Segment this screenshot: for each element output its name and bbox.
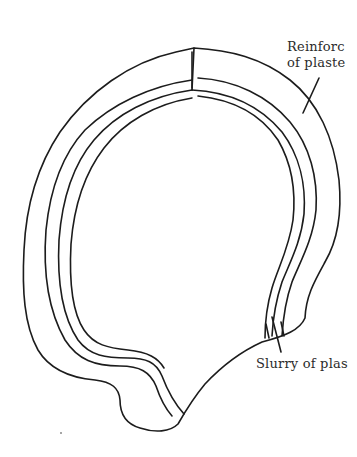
reinforcement-inner-contour-left bbox=[45, 80, 192, 416]
slurry-label-line-1: Slurry of plas bbox=[256, 356, 348, 372]
slurry-inner-line-left bbox=[70, 98, 192, 368]
reinforcement-label-line-1: Reinforc bbox=[287, 39, 345, 55]
slurry-label: Slurry of plas bbox=[256, 356, 348, 372]
reinforcement-label: Reinforc of plaste bbox=[287, 39, 345, 71]
stray-dot bbox=[60, 432, 62, 434]
slurry-tick-1 bbox=[266, 324, 269, 338]
slurry-inner-line bbox=[198, 96, 294, 338]
slurry-leader-line bbox=[272, 317, 281, 352]
reinforcement-label-line-2: of plaste bbox=[287, 55, 345, 71]
